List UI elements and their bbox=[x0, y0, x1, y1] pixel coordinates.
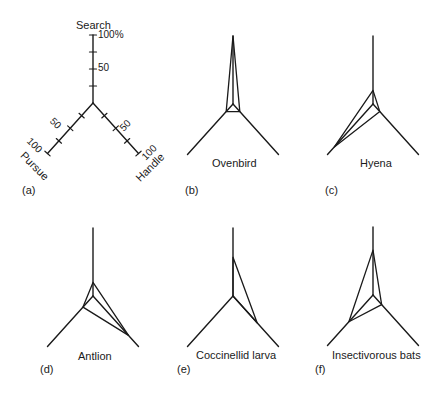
tick-label-search-100: 100% bbox=[98, 30, 124, 40]
panel-letter-d: (d) bbox=[40, 364, 53, 375]
panel-antlion-axis-handle bbox=[93, 296, 138, 347]
panel-name-ovenbird: Ovenbird bbox=[212, 158, 257, 169]
panel-coccinellid-larva-profile-triangle bbox=[233, 257, 257, 323]
panel-name-hyena: Hyena bbox=[360, 158, 392, 169]
tick-label-search-50: 50 bbox=[98, 63, 109, 73]
panel-letter-f: (f) bbox=[315, 364, 325, 375]
panel-name-antlion: Antlion bbox=[78, 351, 112, 362]
panel-letter-a: (a) bbox=[22, 185, 35, 196]
figure-canvas bbox=[0, 0, 441, 397]
panel-letter-c: (c) bbox=[325, 185, 338, 196]
panel-insectivorous-bats-profile-triangle bbox=[349, 250, 382, 322]
panel-insectivorous-bats-axis-handle bbox=[373, 295, 418, 346]
panel-insectivorous-bats-axis-pursue bbox=[328, 295, 373, 346]
panel-coccinellid-larva-axis-pursue bbox=[188, 296, 233, 347]
panel-letter-b: (b) bbox=[185, 185, 198, 196]
panel-letter-e: (e) bbox=[177, 364, 190, 375]
panel-name-insectivorous-bats: Insectivorous bats bbox=[332, 350, 421, 361]
panel-antlion-axis-pursue bbox=[48, 296, 93, 347]
panel-name-coccinellid-larva: Coccinellid larva bbox=[196, 350, 276, 361]
